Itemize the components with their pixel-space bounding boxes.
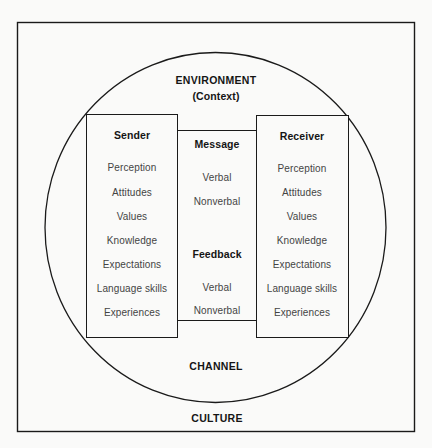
- receiver-item: Values: [287, 211, 317, 222]
- feedback-item: Verbal: [203, 282, 232, 293]
- sender-item: Knowledge: [107, 235, 157, 246]
- receiver-item: Attitudes: [282, 187, 322, 198]
- sender-item: Expectations: [103, 259, 161, 270]
- receiver-item: Perception: [278, 163, 327, 174]
- receiver-title: Receiver: [280, 130, 325, 142]
- message-title: Message: [194, 138, 239, 150]
- receiver-item: Experiences: [274, 307, 330, 318]
- sender-item: Attitudes: [112, 187, 152, 198]
- sender-item: Experiences: [104, 307, 160, 318]
- feedback-title: Feedback: [192, 248, 241, 260]
- receiver-item: Knowledge: [277, 235, 327, 246]
- context-label: (Context): [193, 90, 240, 102]
- sender-title: Sender: [114, 129, 150, 141]
- channel-label: CHANNEL: [189, 360, 242, 372]
- sender-box: [86, 114, 178, 338]
- receiver-item: Language skills: [267, 283, 337, 294]
- sender-item: Values: [117, 211, 147, 222]
- receiver-box: [256, 115, 349, 338]
- sender-item: Language skills: [97, 283, 167, 294]
- feedback-item: Nonverbal: [194, 305, 240, 316]
- culture-label: CULTURE: [191, 412, 242, 424]
- message-item: Nonverbal: [194, 196, 240, 207]
- sender-item: Perception: [108, 162, 157, 173]
- message-item: Verbal: [203, 172, 232, 183]
- environment-label: ENVIRONMENT: [176, 74, 257, 86]
- receiver-item: Expectations: [273, 259, 331, 270]
